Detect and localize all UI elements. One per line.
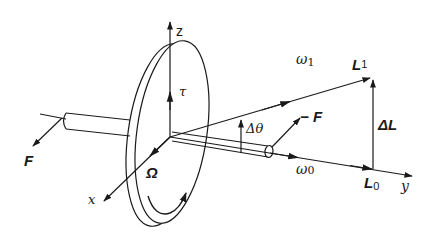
L0-arrow [350, 166, 372, 170]
gyroscope-diagram: z τ x Ω F ω1 Δθ − F ω0 L1 L0 y ΔL [0, 0, 433, 252]
omega-0-label: ω0 [296, 161, 314, 177]
left-shaft [40, 113, 130, 136]
force-left-label: F [24, 152, 34, 169]
torque-label: τ [179, 84, 187, 99]
force-right-arrow [272, 118, 300, 147]
precession-label: Ω [145, 164, 158, 181]
omega-0-arrow [270, 153, 298, 158]
delta-theta-label: Δθ [245, 121, 263, 136]
force-left-arrow [33, 118, 62, 146]
force-right-label: − F [300, 108, 323, 125]
x-axis-label: x [88, 192, 96, 207]
delta-L-label: ΔL [377, 116, 397, 133]
y-axis-label: y [400, 178, 410, 194]
flywheel-disk [116, 36, 220, 231]
L0-label: L0 [364, 174, 379, 192]
z-axis-label: z [176, 23, 183, 39]
omega-1-arrowhead [262, 102, 290, 111]
omega-1-label: ω1 [296, 51, 314, 69]
caption-fragment [0, 244, 433, 252]
L1-label: L1 [352, 56, 367, 73]
